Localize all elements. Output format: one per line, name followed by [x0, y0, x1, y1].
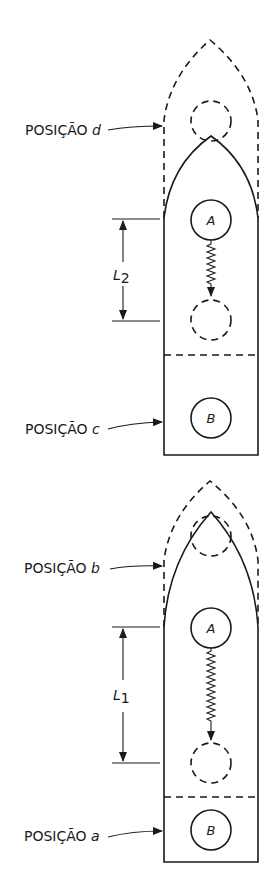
mass-b-label: B: [207, 411, 216, 426]
mass-b-label: B: [207, 823, 216, 838]
label-position-c: POSIÇÃO c: [25, 421, 100, 437]
mass-a-label: A: [206, 213, 216, 228]
mass-a-label: A: [206, 621, 216, 636]
label-position-b: POSIÇÃO b: [24, 560, 100, 576]
mass-a-ghost-upper: [191, 101, 231, 141]
leader-arrow-a: [108, 831, 162, 837]
label-position-d: POSIÇÃO d: [25, 122, 101, 138]
rocket-diagram: A B L2 POSIÇÃO d POSIÇÃO c: [0, 0, 272, 885]
top-panel: A B L2 POSIÇÃO d POSIÇÃO c: [25, 40, 258, 455]
leader-arrow-b: [110, 566, 162, 569]
leader-arrow-d: [108, 126, 162, 130]
label-position-a: POSIÇÃO a: [24, 828, 100, 844]
mass-a-ghost-lower: [191, 300, 231, 340]
dimension-label-l2: L2: [113, 267, 130, 286]
spring-icon: [207, 648, 215, 740]
nose-outline-position-b: [164, 481, 258, 627]
leader-arrow-c: [108, 422, 162, 429]
nose-outline-position-d: [164, 40, 258, 218]
bottom-panel: A B L1 POSIÇÃO b POSIÇÃO a: [24, 481, 258, 862]
dimension-label-l1: L1: [113, 687, 130, 706]
mass-a-ghost-lower: [191, 743, 231, 783]
mass-a-ghost-upper: [191, 516, 231, 556]
spring-icon: [207, 240, 215, 296]
